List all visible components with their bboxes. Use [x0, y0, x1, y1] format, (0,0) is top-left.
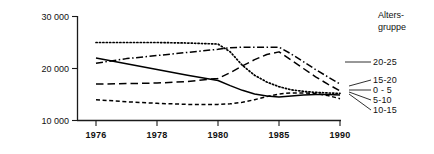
y-tick-label-10000: 10 000 — [41, 116, 69, 126]
legend-label-20-25: 20-25 — [373, 57, 397, 67]
line-chart: 30 000 20 000 10 000 1976 1978 1980 1985… — [0, 0, 434, 154]
legend-label-15-20: 15-20 — [373, 75, 397, 85]
legend-label-0-5: 0 - 5 — [373, 85, 392, 95]
legend-title-line1: Alters- — [378, 10, 404, 20]
series-group — [96, 43, 340, 105]
legend-leader-15-20 — [349, 80, 371, 86]
legend-label-10-15: 10-15 — [373, 105, 397, 115]
y-axis-ticks: 30 000 20 000 10 000 — [41, 12, 77, 126]
x-tick-label-1990: 1990 — [329, 130, 350, 140]
x-tick-label-1978: 1978 — [146, 130, 167, 140]
x-tick-label-1980: 1980 — [207, 130, 228, 140]
series-line-15-20 — [96, 43, 340, 94]
legend-title-line2: gruppe — [378, 22, 406, 32]
x-tick-label-1985: 1985 — [268, 130, 289, 140]
x-axis-ticks: 1976 1978 1980 1985 1990 — [85, 121, 350, 141]
y-tick-label-30000: 30 000 — [41, 12, 69, 22]
y-tick-label-20000: 20 000 — [41, 64, 69, 74]
x-tick-label-1976: 1976 — [85, 130, 106, 140]
legend-label-5-10: 5-10 — [373, 95, 392, 105]
legend: Alters- gruppe 20-25 15-20 0 - 5 5-10 10… — [345, 10, 406, 115]
